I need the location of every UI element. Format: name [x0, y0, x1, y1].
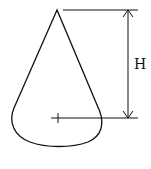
cone-outline	[12, 10, 102, 147]
cone-diagram: H	[0, 0, 151, 169]
height-label: H	[134, 56, 146, 72]
